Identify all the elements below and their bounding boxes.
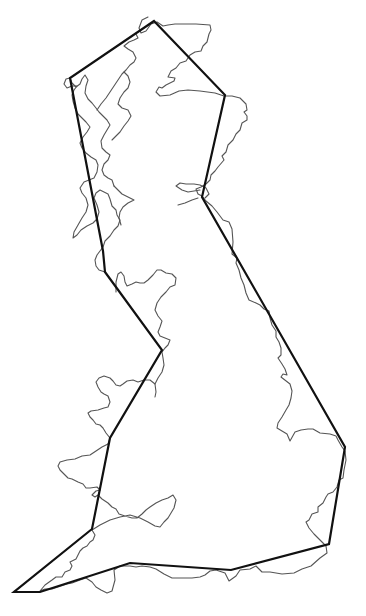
map-canvas (0, 0, 366, 616)
coastline-segment (40, 17, 346, 593)
coastline-segment (88, 376, 156, 444)
coastline-layer (40, 17, 346, 593)
coastline-segment (178, 198, 198, 205)
coastline-segment (112, 72, 131, 140)
coastline-segment (114, 186, 134, 225)
coastline-segment (70, 75, 114, 186)
simplified-outline-polygon (14, 21, 345, 592)
coastline-segment (64, 78, 120, 272)
coastline-segment (92, 490, 176, 530)
